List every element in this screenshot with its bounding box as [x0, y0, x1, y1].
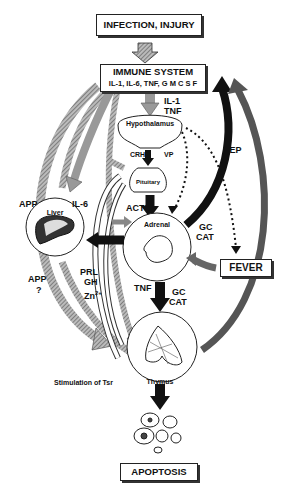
gc-label-1: GC	[199, 222, 213, 232]
il6-label: IL-6	[72, 199, 88, 209]
hypothalamus-label: Hypothalamus	[125, 119, 175, 129]
fever-box: FEVER	[220, 259, 272, 277]
thymus-label: Thymus	[140, 377, 180, 387]
immune-system-box: IMMUNE SYSTEM IL-1, IL-6, TNF, G M C S F	[100, 64, 206, 92]
gh-label: GH	[84, 277, 98, 287]
adrenal-label: Adrenal	[137, 220, 177, 230]
apoptosis-box: APOPTOSIS	[120, 463, 198, 481]
stimulation-label: Stimulation of Tsr	[54, 378, 113, 388]
immune-title: IMMUNE SYSTEM	[101, 66, 205, 78]
zn-text: Zn	[84, 291, 95, 301]
tnf-top-label: TNF	[164, 106, 182, 116]
crh-label: CRH	[130, 150, 145, 160]
tnf-mid-label: TNF	[134, 283, 152, 293]
prl-label: PRL	[80, 267, 98, 277]
infection-arrow	[132, 43, 158, 63]
apoptosis-label: APOPTOSIS	[131, 466, 186, 477]
cat-label-2: CAT	[169, 297, 187, 307]
question-label: ?	[36, 285, 42, 295]
gc-label-2: GC	[172, 287, 186, 297]
infection-label: INFECTION, INJURY	[104, 19, 195, 30]
infection-injury-box: INFECTION, INJURY	[96, 14, 202, 36]
lep-label: LEP	[224, 145, 242, 155]
il1-label: IL-1	[164, 96, 180, 106]
cat-label-1: CAT	[196, 232, 214, 242]
pituitary-label: Pituitary	[132, 177, 164, 187]
acth-label: ACTH	[126, 203, 151, 213]
app-bottom-label: APP	[28, 274, 47, 284]
zn-label: Zn2+	[84, 288, 102, 301]
apoptotic-cells	[134, 413, 181, 453]
immune-cytokines: IL-1, IL-6, TNF, G M C S F	[101, 78, 205, 89]
liver-label: Liver	[42, 208, 68, 218]
fever-label: FEVER	[229, 262, 262, 273]
vp-label: VP	[164, 150, 173, 160]
app-top-label: APP	[19, 199, 38, 209]
gc-cat-feedback-arc	[186, 88, 228, 225]
zn-superscript: 2+	[95, 290, 102, 296]
